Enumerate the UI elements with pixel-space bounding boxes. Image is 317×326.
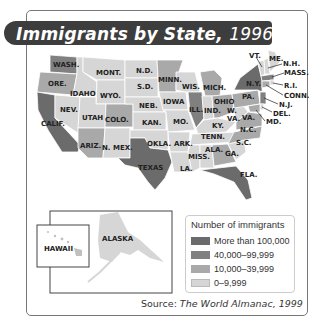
svg-text:TEXAS: TEXAS	[138, 164, 163, 172]
state-nm	[103, 128, 130, 158]
svg-text:OHIO: OHIO	[214, 98, 234, 106]
svg-text:MD.: MD.	[266, 118, 281, 126]
svg-text:S.C.: S.C.	[236, 139, 252, 147]
legend-swatch	[191, 279, 210, 287]
svg-text:ORE.: ORE.	[48, 80, 67, 88]
svg-text:N.H.: N.H.	[283, 60, 300, 68]
svg-text:IDAHO: IDAHO	[70, 90, 96, 98]
svg-text:N.Y.: N.Y.	[246, 80, 261, 88]
svg-text:DEL.: DEL.	[273, 110, 291, 118]
svg-text:GA.: GA.	[225, 150, 239, 158]
legend-swatch	[191, 251, 210, 259]
legend-item: More than 100,000	[191, 235, 290, 246]
svg-text:WIS.: WIS.	[182, 83, 200, 91]
svg-text:ALA.: ALA.	[205, 146, 223, 154]
source-prefix: Source:	[141, 298, 180, 309]
svg-text:N.J.: N.J.	[279, 101, 293, 109]
svg-text:W.: W.	[227, 107, 237, 115]
legend-label: 40,000–99,999	[214, 250, 274, 260]
source-note: Source: The World Almanac, 1999	[141, 298, 303, 309]
legend-swatch	[191, 237, 210, 245]
svg-text:N.C.: N.C.	[240, 126, 256, 134]
svg-text:IOWA: IOWA	[163, 98, 185, 106]
svg-text:ILL.: ILL.	[189, 106, 203, 114]
legend: Number of immigrants More than 100,000 4…	[185, 215, 295, 293]
svg-text:MICH.: MICH.	[203, 84, 226, 92]
svg-text:MASS.: MASS.	[284, 69, 309, 77]
svg-text:FLA.: FLA.	[240, 171, 257, 179]
svg-text:NEB.: NEB.	[139, 102, 158, 110]
svg-text:MONT.: MONT.	[96, 69, 121, 77]
svg-text:NEV.: NEV.	[60, 106, 78, 114]
svg-text:MINN.: MINN.	[158, 76, 182, 84]
svg-text:CONN.: CONN.	[284, 92, 309, 100]
svg-text:MISS.: MISS.	[188, 153, 210, 161]
svg-text:LA.: LA.	[180, 165, 193, 173]
svg-text:WYO.: WYO.	[100, 92, 121, 100]
svg-text:UTAH: UTAH	[82, 114, 103, 122]
svg-text:ME.: ME.	[269, 55, 283, 63]
svg-text:N.D.: N.D.	[136, 67, 153, 75]
legend-item: 0–9,999	[191, 277, 247, 288]
svg-text:HAWAII: HAWAII	[44, 245, 73, 253]
svg-text:ALASKA: ALASKA	[102, 235, 134, 243]
svg-text:VT.: VT.	[249, 52, 261, 60]
legend-label: 0–9,999	[214, 278, 247, 288]
legend-swatch	[191, 265, 210, 273]
svg-text:CALIF.: CALIF.	[41, 120, 65, 128]
source-name: The World Almanac, 1999	[180, 298, 303, 309]
svg-text:IND.: IND.	[204, 107, 221, 115]
legend-title: Number of immigrants	[191, 219, 284, 230]
legend-label: 10,000–39,999	[214, 264, 274, 274]
svg-text:TENN.: TENN.	[201, 133, 225, 141]
svg-text:OKLA.: OKLA.	[147, 140, 171, 148]
svg-text:S.D.: S.D.	[137, 83, 153, 91]
svg-text:ARK.: ARK.	[174, 140, 193, 148]
svg-text:N. MEX.: N. MEX.	[102, 144, 133, 152]
svg-text:COLO.: COLO.	[105, 116, 129, 124]
svg-text:ARIZ.: ARIZ.	[80, 142, 101, 150]
svg-text:KAN.: KAN.	[142, 119, 161, 127]
state-mi	[200, 70, 222, 96]
state-ri	[270, 80, 274, 85]
svg-text:KY.: KY.	[212, 122, 224, 130]
svg-text:PA.: PA.	[242, 93, 255, 101]
svg-text:VA.: VA.	[227, 115, 240, 123]
svg-text:R.I.: R.I.	[284, 82, 297, 90]
legend-label: More than 100,000	[214, 236, 290, 246]
svg-text:WASH.: WASH.	[53, 61, 79, 69]
legend-item: 40,000–99,999	[191, 249, 274, 260]
state-nj	[260, 92, 266, 104]
legend-item: 10,000–39,999	[191, 263, 274, 274]
svg-text:VA.: VA.	[242, 114, 255, 122]
svg-text:MO.: MO.	[173, 118, 188, 126]
